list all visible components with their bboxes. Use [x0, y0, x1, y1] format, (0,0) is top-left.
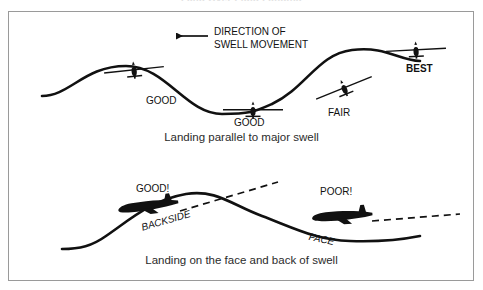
aircraft-best-crest-right — [386, 40, 447, 60]
glide-path-face — [372, 214, 460, 221]
caption-landing-face-back: Landing on the face and back of swell — [0, 254, 483, 266]
swell-direction-label: DIRECTION OF SWELL MOVEMENT — [214, 26, 308, 51]
glide-path-backside — [180, 182, 278, 211]
aircraft-good-crest-left — [103, 58, 164, 81]
label-good-backside: GOOD! — [136, 183, 169, 194]
label-good-mid: GOOD — [234, 117, 265, 128]
caption-landing-parallel: Landing parallel to major swell — [0, 131, 483, 143]
swell-direction-line2: SWELL MOVEMENT — [214, 39, 308, 52]
swell-curve-top — [42, 49, 420, 114]
aircraft-fair-face — [313, 69, 375, 107]
panel-face-back — [62, 182, 460, 249]
aircraft-poor-face — [311, 204, 373, 226]
label-poor-face: POOR! — [320, 186, 352, 197]
figure-page: Land Over Fluid Landing — [0, 0, 483, 290]
swell-curve-bottom — [62, 193, 420, 249]
label-good-left: GOOD — [146, 95, 177, 106]
label-fair: FAIR — [328, 107, 350, 118]
swell-direction-line1: DIRECTION OF — [214, 26, 308, 39]
label-best: BEST — [406, 63, 433, 74]
